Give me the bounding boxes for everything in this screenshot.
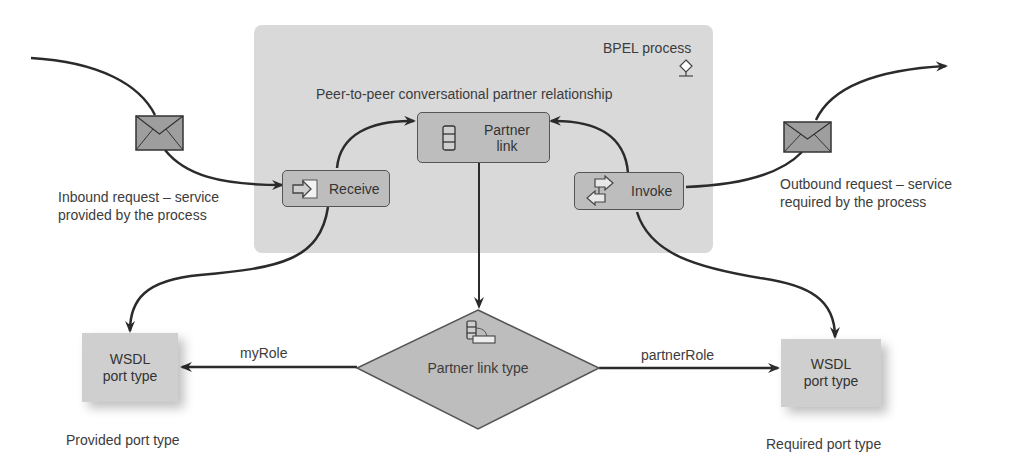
invoke-bidirectional-arrows-icon <box>583 175 617 207</box>
diagram-canvas: BPEL process Peer-to-peer conversational… <box>0 0 1009 474</box>
receive-arrow-icon <box>291 178 319 200</box>
outbound-request-line1: Outbound request – service <box>780 176 952 193</box>
required-port-type-caption: Required port type <box>766 436 881 453</box>
invoke-label: Invoke <box>631 183 672 199</box>
outbound-request-line2: required by the process <box>780 194 926 211</box>
wsdl-left-line2: port type <box>103 368 157 385</box>
invoke-activity[interactable]: Invoke <box>574 172 684 210</box>
partner-role-label: partnerRole <box>641 347 714 364</box>
partner-link-label-line1: Partner <box>484 122 530 138</box>
bpel-process-icon <box>676 58 696 80</box>
partner-link-type-icon <box>466 320 496 344</box>
receive-label: Receive <box>329 181 380 197</box>
wsdl-port-type-required[interactable]: WSDL port type <box>781 339 881 407</box>
envelope-icon <box>783 121 832 153</box>
inbound-request-line1: Inbound request – service <box>58 189 219 206</box>
my-role-label: myRole <box>240 345 287 362</box>
wsdl-right-line2: port type <box>804 373 858 390</box>
envelope-icon <box>135 115 184 151</box>
partner-link-label-line2: link <box>484 138 530 154</box>
wsdl-left-line1: WSDL <box>103 351 157 368</box>
bpel-process-title: BPEL process <box>603 40 691 57</box>
wsdl-port-type-provided[interactable]: WSDL port type <box>82 333 178 402</box>
wsdl-right-line1: WSDL <box>804 356 858 373</box>
provided-port-type-caption: Provided port type <box>66 432 180 449</box>
inbound-request-line2: provided by the process <box>58 207 207 224</box>
partner-link-type-label: Partner link type <box>420 360 536 377</box>
partner-link-stack-icon <box>442 125 456 151</box>
partner-relationship-label: Peer-to-peer conversational partner rela… <box>316 86 613 103</box>
partner-link[interactable]: Partner link <box>417 112 550 163</box>
receive-activity[interactable]: Receive <box>282 170 390 207</box>
